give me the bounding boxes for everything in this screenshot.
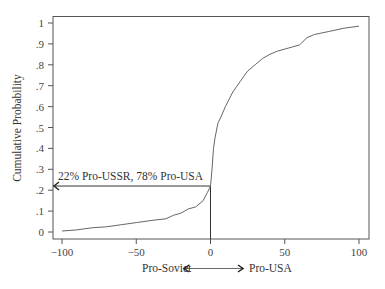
y-tick-label: .1 [36,205,44,217]
y-tick-label: .3 [36,163,45,175]
y-axis-ticks: 0.1.2.3.4.5.6.7.8.91 [36,17,53,238]
y-tick-label: .6 [36,101,45,113]
y-tick-label: .4 [36,142,45,154]
y-tick-label: .2 [36,184,44,196]
y-tick-label: .9 [36,38,45,50]
y-tick-label: 1 [39,17,45,29]
cumulative-probability-chart: 0.1.2.3.4.5.6.7.8.91 −100−50050100 22% P… [0,0,385,289]
crosshair-annotation: 22% Pro-USSR, 78% Pro-USA [58,170,204,183]
x-tick-label: −50 [128,246,146,258]
x-tick-label: 100 [351,246,368,258]
x-axis-ticks: −100−50050100 [51,239,368,258]
x-axis-title-right: Pro-USA [249,262,293,274]
y-tick-label: 0 [39,226,45,238]
y-tick-label: .7 [36,80,45,92]
y-tick-label: .8 [36,59,45,71]
x-tick-label: −100 [51,246,74,258]
y-tick-label: .5 [36,122,45,134]
x-tick-label: 50 [279,246,291,258]
y-axis-title: Cumulative Probability [11,74,24,182]
x-tick-label: 0 [208,246,214,258]
